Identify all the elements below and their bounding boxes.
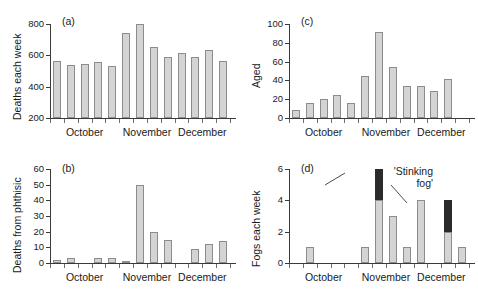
plot-d-bar	[361, 247, 369, 263]
plot-d-x-tick	[427, 264, 428, 268]
plot-c-x-tick	[469, 119, 470, 123]
plot-a-y-tick	[46, 87, 50, 88]
plot-c-bar	[375, 32, 383, 118]
plot-b-x-tick	[202, 264, 203, 268]
plot-b-x-tick	[188, 264, 189, 268]
plot-b-bar	[67, 258, 75, 263]
plot-b-x-tick	[216, 264, 217, 268]
plot-a-x-tick	[147, 119, 148, 123]
plot-d-bar	[306, 247, 314, 263]
plot-a-y-tick-label: 600	[4, 50, 44, 60]
plot-d-bar	[417, 200, 425, 263]
plot-b-x-tick	[147, 264, 148, 268]
plot-a-bar	[205, 50, 213, 118]
plot-b-bar	[122, 261, 130, 263]
plot-b-y-tick-label: 40	[4, 195, 44, 205]
plot-b-y-tick	[46, 185, 50, 186]
plot-d-bar	[444, 232, 452, 263]
plot-c-y-tick-label: 40	[243, 75, 283, 85]
plot-b-y-tick-label: 60	[4, 164, 44, 174]
plot-c-x-tick	[400, 119, 401, 123]
plot-b-bar	[219, 241, 227, 263]
plot-a-x-tick	[50, 119, 51, 123]
plot-d-bar	[444, 200, 452, 231]
plot-c-y-tick	[285, 80, 289, 81]
plot-b-x-tick	[161, 264, 162, 268]
plot-b-x-tick	[175, 264, 176, 268]
plot-b-y-tick	[46, 232, 50, 233]
plot-a-bar	[81, 64, 89, 118]
plot-a-x-tick	[64, 119, 65, 123]
plot-a-bar	[219, 61, 227, 118]
plot-c-x-tick	[317, 119, 318, 123]
plot-d-bar	[389, 216, 397, 263]
plot-b-bar	[108, 258, 116, 263]
plot-c-month-label: December	[396, 127, 478, 138]
plot-a-y-tick	[46, 24, 50, 25]
plot-b-bar	[150, 232, 158, 263]
plot-c-bar	[306, 103, 314, 118]
plot-a-month-label: December	[157, 127, 247, 138]
plot-d-y-axis-line	[289, 169, 290, 264]
plot-d-x-tick	[317, 264, 318, 268]
plot-c-y-tick	[285, 99, 289, 100]
plot-c-bar	[320, 99, 328, 118]
plot-b-bar	[164, 240, 172, 264]
plot-c-bar	[430, 91, 438, 118]
plot-d-y-tick-label: 0	[243, 258, 283, 268]
plot-c-x-tick	[441, 119, 442, 123]
plot-c-y-tick-label: 0	[243, 113, 283, 123]
plot-d-x-tick	[372, 264, 373, 268]
plot-d-x-tick	[400, 264, 401, 268]
panel-d-fogs-each-week: Fogs each week (d) 'Stinking fog' 0246Oc…	[239, 145, 478, 291]
plot-d-y-tick	[285, 232, 289, 233]
plot-a-bar	[136, 24, 144, 118]
plot-b-bar	[205, 244, 213, 263]
plot-b-month-label: December	[157, 272, 247, 283]
plot-d-x-tick	[303, 264, 304, 268]
four-panel-bar-figure: Deaths each week (a) 200400600800October…	[0, 0, 478, 291]
plot-a-x-tick	[175, 119, 176, 123]
plot-a-y-tick-label: 800	[4, 19, 44, 29]
plot-b-y-tick	[46, 216, 50, 217]
plot-c-x-tick	[427, 119, 428, 123]
plot-b-y-tick	[46, 169, 50, 170]
plot-b-y-tick-label: 20	[4, 227, 44, 237]
plot-b-y-tick	[46, 247, 50, 248]
plot-d-x-tick	[441, 264, 442, 268]
plot-c-bar	[389, 67, 397, 118]
plot-d-x-tick	[331, 264, 332, 268]
plot-b-x-tick	[230, 264, 231, 268]
plot-d-x-tick	[469, 264, 470, 268]
plot-d-x-tick	[358, 264, 359, 268]
plot-d-y-tick	[285, 200, 289, 201]
plot-c-bar	[333, 95, 341, 119]
plot-a-bar	[122, 33, 130, 118]
plot-c-bar	[292, 110, 300, 118]
plot-b-bar	[191, 249, 199, 263]
plot-a-x-tick	[105, 119, 106, 123]
plot-b-x-tick	[119, 264, 120, 268]
plot-d-x-tick	[455, 264, 456, 268]
plot-c-x-tick	[358, 119, 359, 123]
plot-a-bar	[178, 53, 186, 118]
plot-a-x-tick	[202, 119, 203, 123]
plot-c-bar	[403, 86, 411, 118]
plot-a-y-tick-label: 200	[4, 113, 44, 123]
plot-b-x-tick	[78, 264, 79, 268]
plot-b-x-tick	[50, 264, 51, 268]
panel-b-deaths-from-phthisic: Deaths from phthisic (b) 0102030405060Oc…	[0, 145, 239, 291]
plot-d-month-label: December	[396, 272, 478, 283]
plot-c-x-tick	[372, 119, 373, 123]
plot-a-y-tick	[46, 55, 50, 56]
plot-c-x-tick	[303, 119, 304, 123]
plot-b-x-tick	[92, 264, 93, 268]
plot-d-x-tick	[386, 264, 387, 268]
plot-a-x-tick	[92, 119, 93, 123]
plot-b-y-tick	[46, 200, 50, 201]
plot-a-x-tick	[119, 119, 120, 123]
plot-a-x-tick	[78, 119, 79, 123]
plot-b-bar	[53, 260, 61, 263]
plot-b-x-tick	[105, 264, 106, 268]
plot-a-bar	[164, 57, 172, 118]
